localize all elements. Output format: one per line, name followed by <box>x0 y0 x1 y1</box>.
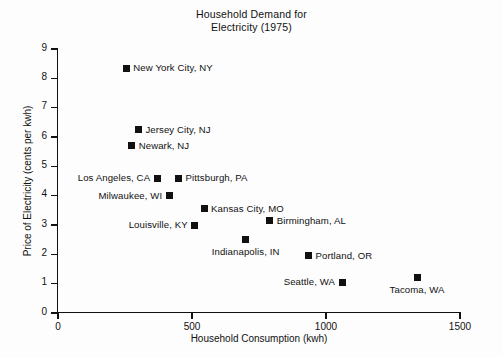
y-axis-tick-label: 5 <box>41 159 47 171</box>
data-point-marker <box>166 192 173 199</box>
data-point-label: Kansas City, MO <box>211 203 284 214</box>
x-axis-tick: 0 <box>57 313 58 319</box>
y-axis-tick-label: 6 <box>41 130 47 142</box>
data-point-label: Milwaukee, WI <box>99 190 163 201</box>
data-point-label: Seattle, WA <box>284 276 335 287</box>
data-point-marker <box>305 252 312 259</box>
y-axis-tick-label: 2 <box>41 247 47 259</box>
data-point-label: New York City, NY <box>133 62 212 73</box>
data-point-marker <box>128 142 135 149</box>
chart-title-line-2: Electricity (1975) <box>0 21 503 34</box>
data-point-label: Tacoma, WA <box>390 284 445 295</box>
data-point-label: Los Angeles, CA <box>78 172 150 183</box>
data-point-marker <box>242 236 249 243</box>
x-axis-tick: 1000 <box>325 313 326 319</box>
y-axis-tick: 2 <box>51 254 57 255</box>
data-point-marker <box>339 279 346 286</box>
data-point-marker <box>191 222 198 229</box>
chart-title: Household Demand for Electricity (1975) <box>0 8 503 34</box>
y-axis-tick-label: 9 <box>41 42 47 54</box>
y-axis-tick-label: 7 <box>41 100 47 112</box>
x-axis-tick-label: 1000 <box>315 321 337 333</box>
y-axis-tick: 1 <box>51 283 57 284</box>
data-point-label: Jersey City, NJ <box>145 124 210 135</box>
chart-screenshot: Household Demand for Electricity (1975) … <box>0 0 503 358</box>
data-point-marker <box>135 126 142 133</box>
x-axis-title: Household Consumption (kwh) <box>58 332 460 345</box>
y-axis-tick-label: 1 <box>41 276 47 288</box>
y-axis-tick: 0 <box>51 312 57 313</box>
y-axis-tick: 9 <box>51 48 57 49</box>
data-point-marker <box>123 65 130 72</box>
data-point-label: Birmingham, AL <box>277 215 346 226</box>
y-axis-tick: 6 <box>51 136 57 137</box>
y-axis-tick: 8 <box>51 78 57 79</box>
x-axis-tick: 500 <box>191 313 192 319</box>
chart-title-line-1: Household Demand for <box>0 8 503 21</box>
y-axis-tick-label: 8 <box>41 71 47 83</box>
y-axis-tick: 5 <box>51 166 57 167</box>
data-point-label: Portland, OR <box>316 250 373 261</box>
data-point-label: Louisville, KY <box>129 219 188 230</box>
y-axis-title: Price of Electricity (cents per kwh) <box>20 49 36 313</box>
data-point-marker <box>175 175 182 182</box>
data-point-label: Pittsburgh, PA <box>186 172 248 183</box>
y-axis-tick: 7 <box>51 107 57 108</box>
y-axis-tick-label: 3 <box>41 218 47 230</box>
data-point-marker <box>154 175 161 182</box>
data-point-label: Newark, NJ <box>139 140 190 151</box>
x-axis-tick-label: 1500 <box>449 321 471 333</box>
x-axis-tick: 1500 <box>459 313 460 319</box>
x-axis-tick-label: 0 <box>55 321 61 333</box>
y-axis-tick: 4 <box>51 195 57 196</box>
data-point-marker <box>414 274 421 281</box>
x-axis-tick-label: 500 <box>184 321 201 333</box>
data-point-label: Indianapolis, IN <box>212 246 280 257</box>
data-point-marker <box>201 205 208 212</box>
y-axis-tick-label: 0 <box>41 306 47 318</box>
data-point-marker <box>266 217 273 224</box>
y-axis-tick-label: 4 <box>41 188 47 200</box>
y-axis-tick: 3 <box>51 224 57 225</box>
